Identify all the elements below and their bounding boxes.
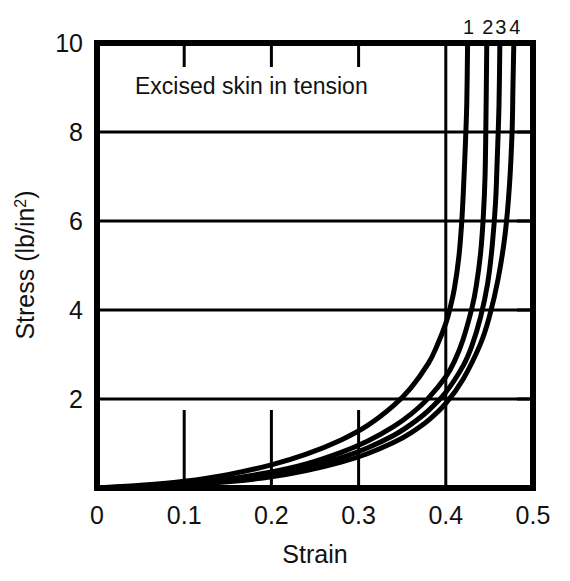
y-tick-label-4: 4 xyxy=(69,296,83,324)
y-tick-labels: 246810 xyxy=(55,29,83,413)
curve-3 xyxy=(97,43,500,488)
y-tick-label-8: 8 xyxy=(69,118,83,146)
x-tick-label-0.3: 0.3 xyxy=(341,501,376,529)
curve-label-4: 4 xyxy=(509,16,520,38)
x-axis-title: Strain xyxy=(282,540,347,568)
x-tick-label-0.4: 0.4 xyxy=(428,501,463,529)
x-tick-labels: 00.10.20.30.40.5 xyxy=(90,501,550,529)
curve-label-3: 3 xyxy=(495,16,506,38)
x-tick-label-0.1: 0.1 xyxy=(167,501,202,529)
curve-label-2: 2 xyxy=(482,16,493,38)
top-axis-ticks xyxy=(184,43,358,67)
curve-4 xyxy=(97,43,514,488)
y-tick-label-6: 6 xyxy=(69,207,83,235)
data-curves xyxy=(97,43,514,488)
curve-number-labels: 1234 xyxy=(463,16,520,38)
y-tick-label-10: 10 xyxy=(55,29,83,57)
y-tick-label-2: 2 xyxy=(69,385,83,413)
chart-annotation: Excised skin in tension xyxy=(135,73,368,99)
y-axis-title-close: ) xyxy=(11,190,39,198)
y-axis-title-main: Stress (lb/in xyxy=(11,208,39,340)
stress-strain-figure: 00.10.20.30.40.5 246810 1234 Excised ski… xyxy=(0,0,570,581)
x-tick-label-0.2: 0.2 xyxy=(254,501,289,529)
chart-canvas: 00.10.20.30.40.5 246810 1234 Excised ski… xyxy=(0,0,570,581)
x-tick-label-0.5: 0.5 xyxy=(516,501,551,529)
y-axis-title-superscript: 2 xyxy=(12,199,29,208)
y-axis-title: Stress (lb/in2) xyxy=(11,190,39,339)
curve-label-1: 1 xyxy=(463,16,474,38)
x-tick-label-0: 0 xyxy=(90,501,104,529)
